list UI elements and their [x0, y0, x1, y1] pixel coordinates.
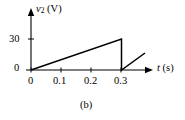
- x-tick-label-0.2: 0.2: [84, 76, 97, 87]
- x-tick-label-0.3: 0.3: [114, 76, 127, 87]
- x-axis-title: t (s): [157, 63, 174, 74]
- waveform-sawtooth-trace: [31, 39, 145, 70]
- y-axis-arrowhead-icon: [28, 8, 34, 16]
- x-tick-label-0.1: 0.1: [53, 76, 66, 87]
- x-axis-arrowhead-icon: [145, 67, 153, 73]
- y-tick-label-30: 30: [9, 34, 20, 45]
- y-tick-label-0: 0: [14, 63, 19, 74]
- figure-sawtooth-waveform: 30 0 0 0.1 0.2 0.3 v2 (V) t (s) (b): [0, 0, 185, 120]
- x-tick-label-0: 0: [28, 76, 33, 87]
- x-axis-unit: (s): [163, 62, 174, 73]
- y-axis-title: v2 (V): [36, 4, 62, 15]
- y-axis-subscript: 2: [41, 6, 45, 15]
- plot-area: [0, 0, 185, 120]
- x-axis-symbol: t: [157, 62, 160, 73]
- y-axis-unit: (V): [47, 3, 62, 14]
- figure-caption: (b): [80, 100, 92, 111]
